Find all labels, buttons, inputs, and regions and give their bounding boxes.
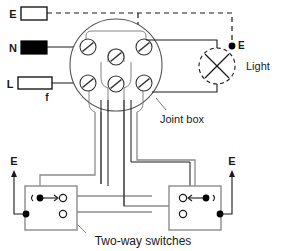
supply-earth-label: E — [9, 8, 16, 20]
lamp-earth-terminal-dot — [229, 43, 236, 50]
terminal-center-lower — [108, 76, 124, 92]
fuse-block — [18, 77, 52, 89]
light-label: Light — [246, 60, 270, 72]
terminal-center-upper — [108, 49, 124, 65]
switch-left-body[interactable] — [25, 186, 77, 230]
switch-left-terminal-upper — [59, 194, 66, 201]
switch-right-body[interactable] — [169, 186, 221, 230]
switch-left-terminal-lower — [59, 210, 66, 217]
supply-neutral-label: N — [9, 42, 17, 54]
two-way-switch-right[interactable] — [169, 186, 221, 230]
wiring-diagram: E N L f — [0, 0, 286, 251]
earth-terminal-block — [21, 7, 47, 20]
terminal-top-left — [80, 39, 96, 55]
switch-right-terminal-lower — [179, 210, 186, 217]
two-way-switch-left[interactable] — [25, 186, 86, 233]
switch-right-terminal-upper — [179, 194, 186, 201]
switch-left-common-contact — [37, 195, 44, 202]
switch-right-earth-label: E — [228, 155, 235, 167]
wiring-diagram-canvas: E N L f — [0, 0, 286, 251]
terminal-bottom-left — [80, 75, 96, 91]
diagram-caption: Two-way switches — [95, 234, 192, 248]
neutral-terminal-block — [21, 41, 47, 54]
terminal-top-right — [136, 39, 152, 55]
terminal-bottom-right — [136, 75, 152, 91]
switch-left-earth-label: E — [10, 155, 17, 167]
lamp-earth-label: E — [238, 40, 245, 51]
joint-box-label: Joint box — [160, 113, 205, 125]
switch-right-common-contact — [203, 195, 210, 202]
supply-live-label: L — [7, 78, 14, 90]
